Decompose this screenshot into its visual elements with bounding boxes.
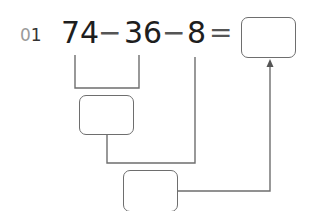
arrow-up-icon bbox=[267, 59, 274, 67]
intermediate-answer-box-1[interactable] bbox=[79, 95, 134, 135]
result-answer-box[interactable] bbox=[241, 17, 296, 58]
intermediate-answer-box-2[interactable] bbox=[123, 170, 178, 211]
